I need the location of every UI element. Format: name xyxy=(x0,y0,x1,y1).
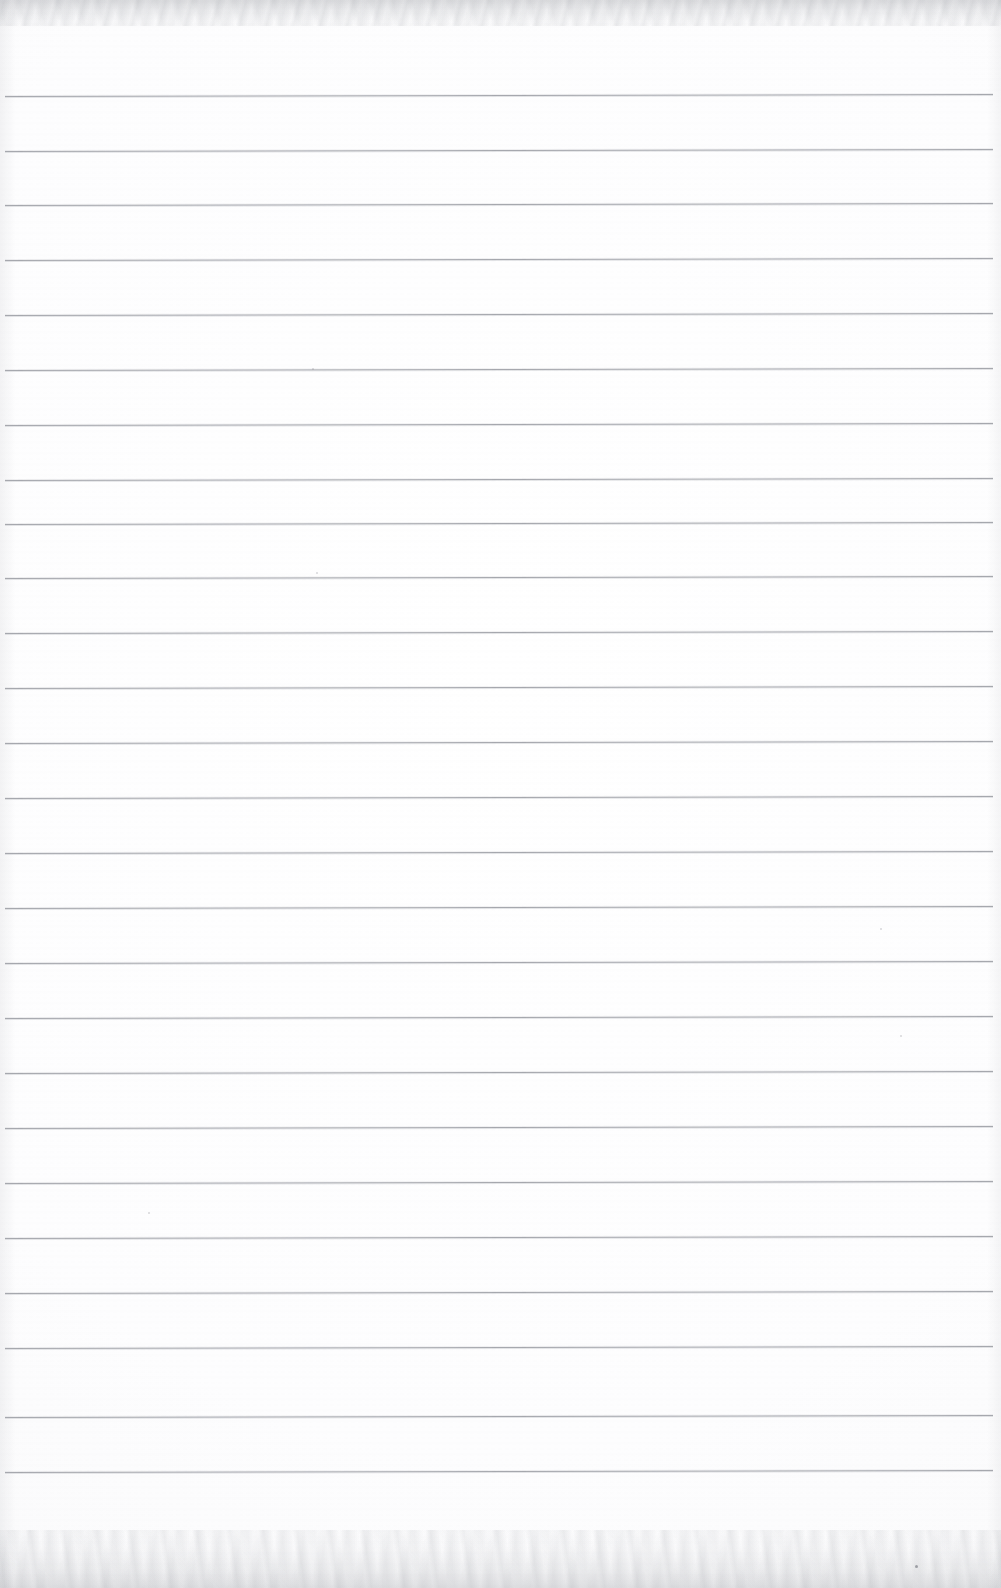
paper-background xyxy=(0,0,1001,1588)
scanned-page xyxy=(0,0,1001,1588)
